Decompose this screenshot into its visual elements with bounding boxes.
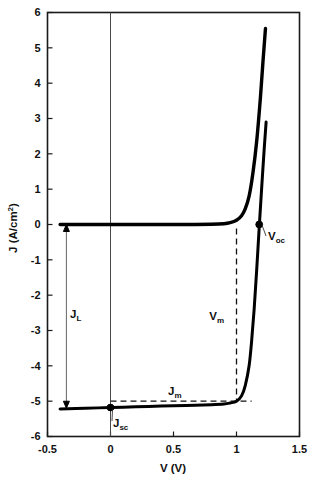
jv-curve-figure: 6543210-1-2-3-4-5-6 -0.500.511.5 V (V) J…	[0, 0, 313, 486]
x-tick-label: 0.5	[166, 443, 181, 455]
y-tick-label: -3	[31, 324, 41, 336]
voc-label-sub: oc	[276, 236, 286, 245]
solar-cell-jv-chart: 6543210-1-2-3-4-5-6 -0.500.511.5 V (V) J…	[0, 0, 313, 486]
x-axis-title: V (V)	[160, 462, 186, 474]
y-tick-label: 6	[34, 6, 40, 18]
x-tick-label: 1.5	[292, 443, 307, 455]
vm-label-sub: m	[217, 316, 224, 325]
y-tick-label: 5	[34, 42, 40, 54]
y-tick-label: -6	[31, 430, 41, 442]
x-tick-label: -0.5	[38, 443, 57, 455]
y-tick-label: 1	[34, 183, 40, 195]
jsc-label-sub: sc	[119, 423, 128, 432]
y-tick-label: -1	[31, 254, 41, 266]
jl-label-sub: L	[76, 314, 81, 323]
y-axis-title-tail: )	[7, 203, 19, 207]
x-tick-label: 1	[233, 443, 239, 455]
y-tick-label: -5	[31, 395, 41, 407]
y-tick-label: -2	[31, 289, 41, 301]
x-tick-label: 0	[107, 443, 113, 455]
y-tick-label: 3	[34, 112, 40, 124]
y-tick-label: 2	[34, 148, 40, 160]
y-tick-label: 0	[34, 218, 40, 230]
y-tick-label: 4	[34, 77, 41, 89]
jm-label-sub: m	[174, 391, 181, 400]
voc-point-marker	[256, 221, 263, 228]
y-tick-label: -4	[31, 360, 42, 372]
y-axis-title-base: J (A/cm	[7, 211, 19, 253]
